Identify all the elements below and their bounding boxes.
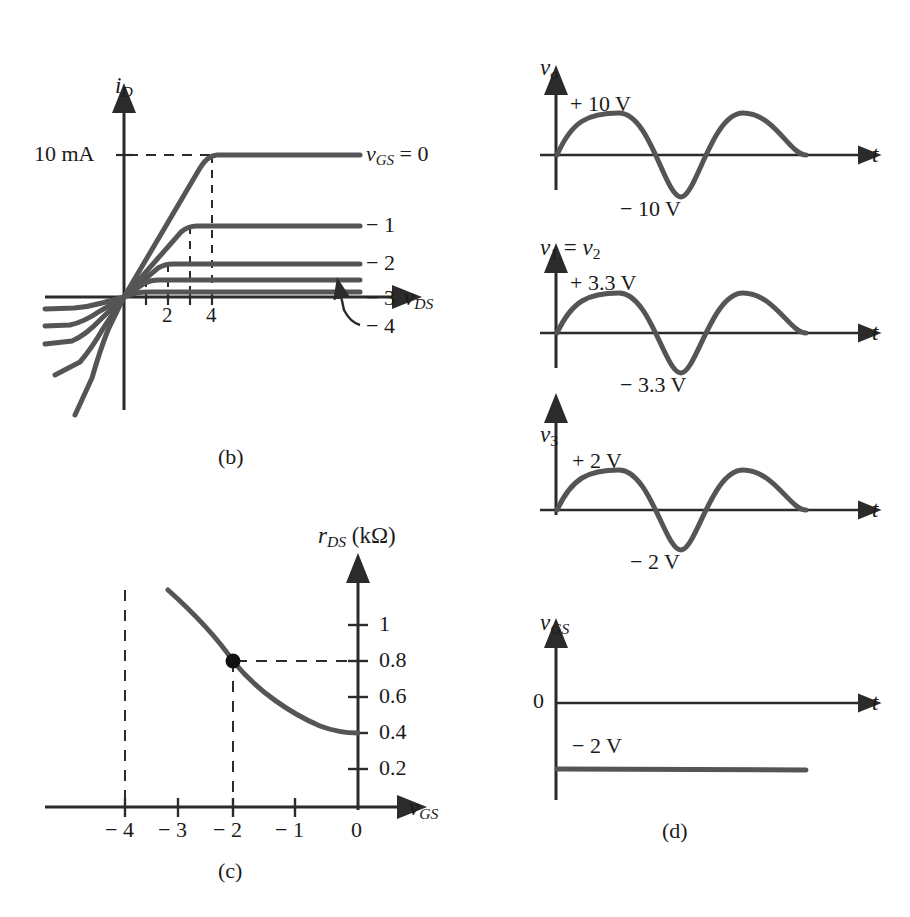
vgs-y-axis-label: vGS — [540, 611, 569, 637]
v3-trough-label: − 2 V — [630, 551, 680, 573]
panel-b-curve-label-m3: − 3 — [366, 287, 395, 309]
panel-c-xtick-label-m1: − 1 — [275, 819, 304, 841]
panel-b-y-axis-label: iD — [115, 74, 133, 100]
panel-c-x-axis-label: vGS — [409, 796, 438, 822]
panel-c-xtick-label-m4: − 4 — [105, 819, 134, 841]
v3-peak-label: + 2 V — [572, 450, 622, 472]
panel-d-waveform-vgs — [556, 645, 860, 800]
panel-d-caption: (d) — [662, 820, 688, 842]
panel-c-y-axis-label: rDS (kΩ) — [318, 524, 396, 550]
panel-b-curve-label-m2: − 2 — [366, 252, 395, 274]
figure-canvas — [0, 0, 910, 917]
panel-b-curve-label-m1: − 1 — [366, 214, 395, 236]
panel-c-graph — [45, 580, 400, 817]
panel-c-ytick-label-1: 1 — [379, 613, 390, 635]
panel-c-ytick-label-0-6: 0.6 — [379, 685, 407, 707]
panel-c-xtick-label-m3: − 3 — [158, 819, 187, 841]
panel-b-x-axis-label: vDS — [404, 286, 433, 312]
vgs-dc-level-trace — [557, 769, 806, 770]
panel-c-caption: (c) — [218, 860, 242, 882]
panel-c-ytick-label-0-4: 0.4 — [379, 721, 407, 743]
v1v2-trough-label: − 3.3 V — [620, 374, 686, 396]
v3-x-axis-label: t — [872, 498, 878, 521]
vo-trough-label: − 10 V — [620, 198, 681, 220]
panel-b-curve-label-m4: − 4 — [366, 315, 395, 337]
vgs-zero-label: 0 — [533, 690, 544, 712]
panel-c-xtick-label-0: 0 — [351, 819, 362, 841]
vo-y-axis-label: vo — [540, 56, 558, 82]
figure-root: iD vDS 10 mA 2 4 vGS = 0 − 1 − 2 − 3 − 4… — [0, 0, 910, 917]
panel-c-ytick-label-0-2: 0.2 — [379, 757, 407, 779]
panel-b-xtick-label-2: 2 — [162, 305, 173, 326]
panel-b-graph — [45, 110, 395, 415]
v1v2-peak-label: + 3.3 V — [570, 272, 636, 294]
v3-y-axis-label: v3 — [540, 423, 558, 449]
panel-b-xtick-label-4: 4 — [206, 305, 217, 326]
panel-b-callout-arrow-m4 — [341, 296, 360, 325]
panel-b-caption: (b) — [218, 446, 244, 468]
panel-c-xtick-label-m2: − 2 — [213, 819, 242, 841]
v1v2-y-axis-label: v1 = v2 — [540, 236, 601, 262]
panel-b-y-value-label: 10 mA — [34, 143, 95, 165]
vo-x-axis-label: t — [872, 143, 878, 166]
v1v2-x-axis-label: t — [872, 321, 878, 344]
panel-d-waveform-v3 — [540, 420, 860, 550]
panel-c-ytick-label-0-8: 0.8 — [379, 649, 407, 671]
vo-peak-label: + 10 V — [570, 93, 631, 115]
panel-b-curve-label-vgs-0: vGS = 0 — [366, 143, 428, 168]
panel-c-operating-point-marker — [226, 654, 241, 669]
vgs-x-axis-label: t — [872, 691, 878, 714]
vgs-dc-level-label: − 2 V — [572, 735, 622, 757]
